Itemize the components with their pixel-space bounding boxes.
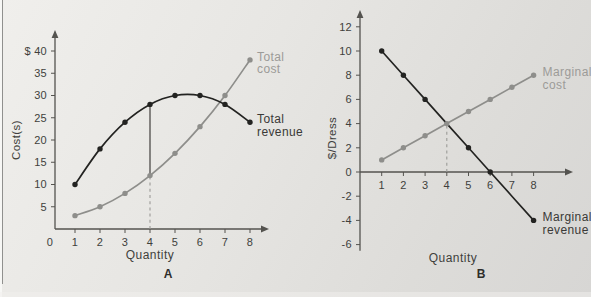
x-tick-label: 6: [197, 236, 203, 248]
y-axis-arrow-icon: [52, 30, 59, 38]
x-tick-label: 1: [72, 236, 78, 248]
charts-canvas: 5101520253035$ 40012345678TotalcostTotal…: [0, 0, 591, 297]
series-total-cost-point: [122, 191, 127, 196]
x-tick-label: 2: [97, 236, 103, 248]
series-marginal-cost-label: Marginalcost: [543, 65, 591, 92]
series-total-cost-point: [172, 151, 177, 156]
x-tick-label: 2: [400, 179, 406, 191]
x-tick-label: 4: [444, 179, 450, 191]
y-tick-label: -4: [342, 214, 352, 226]
y-tick-label: -6: [342, 238, 352, 250]
y-tick-label: 2: [346, 142, 352, 154]
series-marginal-revenue-point: [379, 48, 384, 53]
y-tick-label: 30: [34, 89, 47, 101]
y-tick-label: 12: [339, 21, 352, 33]
chart-B: -6-4-202468101212345678MarginalcostMargi…: [326, 10, 591, 281]
series-marginal-cost-point: [444, 121, 449, 126]
x-axis-title: Quantity: [429, 251, 478, 265]
series-total-cost-point: [97, 204, 102, 209]
y-tick-label: 0: [346, 166, 352, 178]
y-tick-label: -2: [342, 190, 352, 202]
x-tick-label: 3: [422, 179, 428, 191]
series-total-cost-point: [197, 124, 202, 129]
x-tick-label: 7: [222, 236, 228, 248]
y-tick-label: 10: [34, 178, 47, 190]
series-total-cost-point: [72, 213, 77, 218]
x-tick-label: 3: [122, 236, 128, 248]
x-tick-label: 0: [47, 236, 53, 248]
chart-A: 5101520253035$ 40012345678TotalcostTotal…: [10, 30, 303, 281]
series-marginal-revenue-point: [531, 218, 536, 223]
series-total-cost-point: [222, 93, 227, 98]
series-total-cost-line: [75, 60, 250, 216]
series-total-cost-point: [147, 173, 152, 178]
x-tick-label: 6: [487, 179, 493, 191]
x-tick-label: 4: [147, 236, 153, 248]
page-bottom-edge: [0, 292, 591, 297]
series-total-revenue-point: [147, 102, 152, 107]
y-tick-label: 20: [34, 134, 47, 146]
y-axis-arrow-icon: [357, 10, 364, 18]
series-marginal-cost-point: [509, 85, 514, 90]
series-marginal-cost-point: [466, 109, 471, 114]
series-marginal-revenue-label: Marginalrevenue: [543, 210, 591, 237]
series-marginal-revenue-point: [401, 73, 406, 78]
y-axis-title: Cost(s): [10, 120, 22, 160]
series-total-revenue-point: [222, 102, 227, 107]
series-total-cost-point: [247, 57, 252, 62]
series-marginal-cost-point: [488, 97, 493, 102]
series-total-revenue-line: [75, 94, 250, 184]
y-tick-label: 8: [346, 69, 352, 81]
x-tick-label: 1: [378, 179, 384, 191]
y-tick-label: $ 40: [24, 45, 47, 57]
series-total-revenue-point: [247, 120, 252, 125]
panel-letter: A: [164, 267, 173, 281]
series-marginal-revenue-point: [466, 145, 471, 150]
y-tick-label: 10: [339, 45, 352, 57]
series-total-revenue-point: [72, 182, 77, 187]
x-tick-label: 8: [247, 236, 253, 248]
y-tick-label: 5: [41, 201, 47, 213]
panel-letter: B: [477, 267, 486, 281]
x-tick-label: 5: [465, 179, 471, 191]
y-tick-label: 6: [346, 93, 352, 105]
y-axis-title: $/Dress: [326, 117, 338, 159]
x-axis-arrow-icon: [565, 169, 573, 176]
y-tick-label: 35: [34, 67, 47, 79]
series-marginal-revenue-point: [488, 169, 493, 174]
series-total-revenue-point: [122, 120, 127, 125]
series-marginal-cost-point: [531, 73, 536, 78]
x-axis-arrow-icon: [261, 226, 269, 233]
series-total-revenue-point: [172, 93, 177, 98]
y-tick-label: 15: [34, 156, 47, 168]
series-marginal-cost-point: [422, 133, 427, 138]
series-total-revenue-label: Totalrevenue: [257, 112, 303, 139]
series-total-revenue-point: [97, 146, 102, 151]
x-tick-label: 7: [509, 179, 515, 191]
x-tick-label: 5: [172, 236, 178, 248]
series-marginal-revenue-point: [422, 97, 427, 102]
series-total-revenue-point: [197, 93, 202, 98]
y-tick-label: 4: [346, 117, 352, 129]
series-total-cost-label: Totalcost: [257, 50, 284, 77]
series-marginal-cost-point: [401, 145, 406, 150]
y-tick-label: 25: [34, 112, 47, 124]
x-axis-title: Quantity: [126, 248, 175, 262]
series-marginal-cost-point: [379, 157, 384, 162]
x-tick-label: 8: [530, 179, 536, 191]
figure-page: 5101520253035$ 40012345678TotalcostTotal…: [0, 0, 591, 297]
